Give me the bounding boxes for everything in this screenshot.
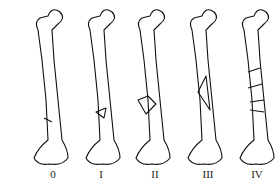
- label-0: 0: [38, 168, 68, 180]
- femur-3: [188, 10, 222, 165]
- label-IV: IV: [242, 168, 272, 180]
- label-II: II: [140, 168, 170, 180]
- femur-2: [136, 10, 170, 165]
- femur-4: [240, 10, 274, 165]
- label-III: III: [193, 168, 223, 180]
- femur-0: [34, 10, 68, 165]
- femur-diagram: [0, 0, 280, 189]
- femur-1: [86, 10, 120, 165]
- label-I: I: [86, 168, 116, 180]
